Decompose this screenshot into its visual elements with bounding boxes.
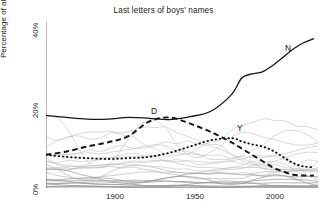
plot-area	[46, 22, 318, 188]
series-label-y: Y	[237, 123, 243, 133]
axis-group	[46, 22, 281, 188]
background-series-line	[46, 153, 318, 178]
y-tick-label-20: 20%	[31, 103, 40, 118]
chart-title: Last letters of boys' names	[0, 6, 327, 15]
background-series-line	[46, 175, 318, 186]
x-tick-label-1950: 1950	[175, 192, 215, 201]
series-label-d: D	[151, 106, 157, 116]
series-label-n: N	[285, 43, 291, 53]
x-tick-label-1900: 1900	[95, 192, 135, 201]
y-tick-label-40: 40%	[31, 23, 40, 38]
background-series-line	[46, 117, 318, 167]
series-line-n	[46, 39, 314, 120]
y-axis-label: Percentage of all boys' names that year	[0, 0, 8, 58]
series-line-d	[46, 117, 314, 175]
x-tick-label-2000: 2000	[255, 192, 295, 201]
background-series-line	[46, 141, 318, 172]
plot-canvas	[46, 22, 318, 188]
background-series-line	[46, 119, 318, 154]
y-tick-label-0: 0%	[31, 184, 40, 195]
chart-figure: Last letters of boys' names Percentage o…	[0, 0, 327, 222]
